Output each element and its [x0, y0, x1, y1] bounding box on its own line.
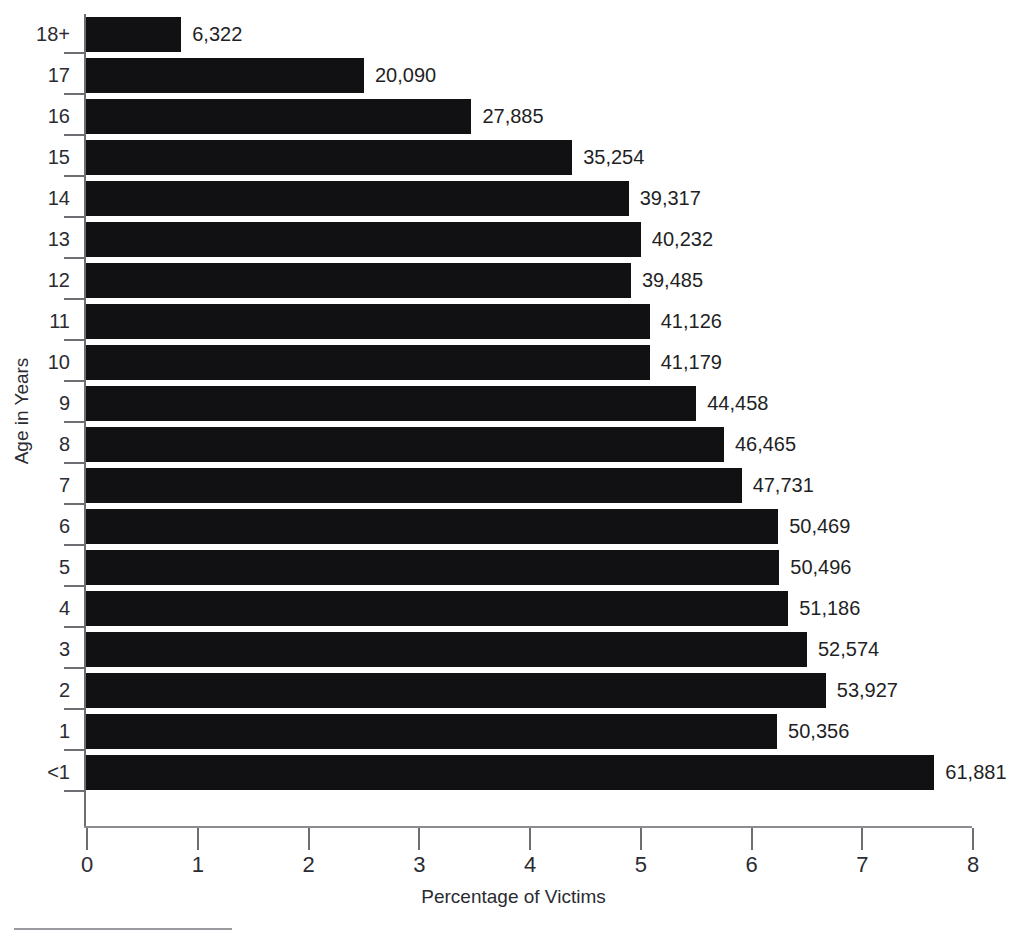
bar-row: 550,496: [0, 547, 1027, 588]
x-axis-tick-label: 3: [399, 852, 439, 878]
bar-row: 1141,126: [0, 301, 1027, 342]
y-axis-tick: [64, 93, 85, 95]
x-axis-tick-label: 0: [67, 852, 107, 878]
x-axis-tick: [972, 828, 974, 850]
bar: [86, 509, 778, 544]
bar-value-label: 20,090: [364, 55, 436, 96]
chart-page: 18+6,3221720,0901627,8851535,2541439,317…: [0, 0, 1027, 936]
bar-row: 1340,232: [0, 219, 1027, 260]
bar-value-label: 47,731: [742, 465, 814, 506]
y-axis-tick: [64, 134, 85, 136]
bar: [86, 99, 471, 134]
bar-value-label: 44,458: [696, 383, 768, 424]
bar-value-label: 52,574: [807, 629, 879, 670]
bar-row: <161,881: [0, 752, 1027, 793]
y-axis-tick: [64, 175, 85, 177]
bar-category-label: 12: [0, 260, 74, 301]
bar-category-label: 18+: [0, 14, 74, 55]
bar: [86, 755, 934, 790]
x-axis-tick-label: 2: [289, 852, 329, 878]
x-axis-line: [84, 826, 972, 828]
bar-row: 1535,254: [0, 137, 1027, 178]
x-axis-tick: [751, 828, 753, 850]
bar-value-label: 41,179: [650, 342, 722, 383]
y-axis-tick: [64, 749, 85, 751]
bar-value-label: 39,485: [631, 260, 703, 301]
bar-row: 747,731: [0, 465, 1027, 506]
x-axis-title: Percentage of Victims: [0, 886, 1027, 908]
bar-row: 1439,317: [0, 178, 1027, 219]
bar-value-label: 6,322: [181, 14, 242, 55]
bar: [86, 17, 181, 52]
bar: [86, 58, 364, 93]
bar-category-label: 4: [0, 588, 74, 629]
bar-row: 846,465: [0, 424, 1027, 465]
x-axis-tick-label: 8: [953, 852, 993, 878]
y-axis-tick: [64, 339, 85, 341]
bar-value-label: 27,885: [471, 96, 543, 137]
bar-row: 352,574: [0, 629, 1027, 670]
bar-category-label: 5: [0, 547, 74, 588]
x-axis-tick-label: 7: [842, 852, 882, 878]
bar: [86, 468, 742, 503]
bar: [86, 345, 650, 380]
bar: [86, 714, 777, 749]
bar: [86, 222, 641, 257]
bar: [86, 263, 631, 298]
y-axis-tick: [64, 667, 85, 669]
bar-row: 650,469: [0, 506, 1027, 547]
bar-value-label: 39,317: [629, 178, 701, 219]
bar: [86, 427, 724, 462]
bar-category-label: 17: [0, 55, 74, 96]
x-axis-tick: [418, 828, 420, 850]
bar-category-label: 2: [0, 670, 74, 711]
x-axis-tick: [86, 828, 88, 850]
bar-value-label: 51,186: [788, 588, 860, 629]
x-axis-tick-label: 5: [621, 852, 661, 878]
bar-category-label: 6: [0, 506, 74, 547]
bar-category-label: 3: [0, 629, 74, 670]
x-axis-tick-label: 4: [510, 852, 550, 878]
y-axis-title: Age in Years: [11, 311, 33, 511]
bar-row: 1627,885: [0, 96, 1027, 137]
bar: [86, 591, 788, 626]
bar-value-label: 50,469: [778, 506, 850, 547]
x-axis-tick: [861, 828, 863, 850]
bar: [86, 386, 696, 421]
bar-value-label: 50,356: [777, 711, 849, 752]
bar-chart-plot-area: 18+6,3221720,0901627,8851535,2541439,317…: [0, 0, 1027, 860]
y-axis-tick: [64, 626, 85, 628]
bar-category-label: 1: [0, 711, 74, 752]
bar-row: 18+6,322: [0, 14, 1027, 55]
bar: [86, 673, 826, 708]
x-axis-tick: [308, 828, 310, 850]
bar-value-label: 41,126: [650, 301, 722, 342]
x-axis-tick: [529, 828, 531, 850]
bar-row: 1041,179: [0, 342, 1027, 383]
x-axis-tick: [640, 828, 642, 850]
bar-value-label: 46,465: [724, 424, 796, 465]
bar-value-label: 40,232: [641, 219, 713, 260]
bar-row: 1239,485: [0, 260, 1027, 301]
bar: [86, 304, 650, 339]
bar-row: 944,458: [0, 383, 1027, 424]
y-axis-tick: [64, 708, 85, 710]
bar-category-label: 15: [0, 137, 74, 178]
y-axis-tick: [64, 544, 85, 546]
y-axis-tick: [64, 503, 85, 505]
bar: [86, 632, 807, 667]
bar: [86, 550, 779, 585]
bar-value-label: 35,254: [572, 137, 644, 178]
y-axis-tick: [64, 298, 85, 300]
bar: [86, 181, 629, 216]
bar-row: 451,186: [0, 588, 1027, 629]
bar-category-label: 14: [0, 178, 74, 219]
y-axis-tick: [64, 52, 85, 54]
bar-row: 253,927: [0, 670, 1027, 711]
footnote-rule: [14, 928, 232, 930]
bar: [86, 140, 572, 175]
y-axis-tick: [64, 257, 85, 259]
bar-value-label: 53,927: [826, 670, 898, 711]
x-axis-tick: [197, 828, 199, 850]
y-axis-tick: [64, 790, 85, 792]
